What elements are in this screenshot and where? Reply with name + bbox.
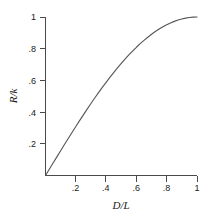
chart-figure: .2 .4 .6 .8 1 .2 .4 .6 .8 1 R/k D/L bbox=[0, 0, 213, 216]
y-tick-labels: .2 .4 .6 .8 1 bbox=[28, 12, 36, 149]
y-axis-title: R/k bbox=[7, 88, 19, 105]
x-tick-label: .8 bbox=[163, 183, 171, 193]
y-axis-ticks bbox=[40, 17, 46, 144]
y-tick-label: .8 bbox=[28, 44, 36, 54]
x-tick-label: .2 bbox=[72, 183, 80, 193]
y-tick-label: .4 bbox=[28, 108, 36, 118]
x-tick-label: .4 bbox=[102, 183, 110, 193]
y-tick-label: .2 bbox=[28, 139, 36, 149]
chart-canvas: .2 .4 .6 .8 1 .2 .4 .6 .8 1 R/k D/L bbox=[0, 0, 213, 216]
x-tick-label: 1 bbox=[194, 183, 199, 193]
y-tick-label: 1 bbox=[31, 12, 36, 22]
x-tick-labels: .2 .4 .6 .8 1 bbox=[72, 183, 200, 193]
data-curve bbox=[46, 17, 198, 176]
x-axis-ticks bbox=[75, 176, 197, 182]
x-tick-label: .6 bbox=[132, 183, 140, 193]
x-axis-title: D/L bbox=[111, 199, 129, 211]
y-tick-label: .6 bbox=[28, 76, 36, 86]
